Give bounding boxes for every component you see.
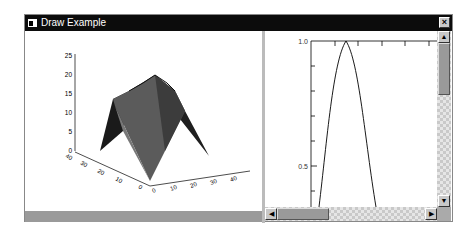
scroll-left-button[interactable]: ◀ bbox=[265, 208, 277, 220]
status-bar bbox=[25, 211, 263, 222]
svg-text:0: 0 bbox=[138, 184, 144, 191]
window-title: Draw Example bbox=[41, 17, 106, 28]
svg-text:40: 40 bbox=[65, 153, 74, 162]
svg-text:10: 10 bbox=[65, 109, 73, 116]
svg-text:20: 20 bbox=[189, 181, 198, 189]
svg-text:30: 30 bbox=[209, 178, 218, 186]
svg-text:25: 25 bbox=[65, 52, 73, 59]
close-button[interactable]: × bbox=[439, 17, 450, 28]
svg-text:20: 20 bbox=[65, 71, 73, 78]
window-icon bbox=[28, 18, 37, 27]
scrollbar-corner bbox=[437, 207, 451, 221]
svg-text:0.5: 0.5 bbox=[298, 163, 308, 170]
line-plot: 1.0 0.5 bbox=[265, 31, 437, 207]
draw-example-window: Draw Example × 0 5 10 15 20 25 40 30 20 … bbox=[24, 14, 453, 222]
horizontal-scrollbar[interactable]: ◀ ▶ bbox=[265, 207, 437, 221]
vertical-scroll-thumb[interactable] bbox=[438, 43, 450, 95]
vertical-scrollbar[interactable]: ▲ ▼ bbox=[437, 31, 451, 207]
title-bar[interactable]: Draw Example × bbox=[25, 15, 452, 31]
svg-text:15: 15 bbox=[65, 90, 73, 97]
svg-text:20: 20 bbox=[97, 168, 106, 177]
svg-text:10: 10 bbox=[169, 184, 178, 192]
surface-plot-pane: 0 5 10 15 20 25 40 30 20 10 0 0 10 20 30… bbox=[25, 31, 263, 211]
line-plot-pane: 1.0 0.5 bbox=[265, 31, 437, 207]
svg-text:5: 5 bbox=[68, 128, 72, 135]
svg-text:0: 0 bbox=[151, 187, 157, 194]
scroll-down-button[interactable]: ▼ bbox=[438, 195, 450, 207]
svg-text:10: 10 bbox=[115, 176, 124, 185]
svg-text:30: 30 bbox=[80, 160, 89, 169]
scroll-up-button[interactable]: ▲ bbox=[438, 31, 450, 43]
horizontal-scroll-thumb[interactable] bbox=[277, 208, 329, 220]
svg-text:1.0: 1.0 bbox=[298, 38, 308, 45]
svg-text:40: 40 bbox=[229, 175, 238, 183]
scroll-right-button[interactable]: ▶ bbox=[425, 208, 437, 220]
surface-plot: 0 5 10 15 20 25 40 30 20 10 0 0 10 20 30… bbox=[25, 31, 263, 211]
